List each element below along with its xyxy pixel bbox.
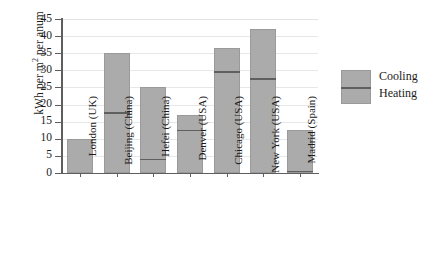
y-axis-tick-label: 15	[12, 114, 52, 126]
y-axis-tick-label: 5	[12, 148, 52, 160]
gridline	[62, 36, 318, 37]
y-axis-tick	[55, 19, 62, 20]
y-axis-tick-label: 40	[12, 29, 52, 41]
x-axis-tick-label: Denver (USA)	[196, 96, 208, 182]
y-axis-tick	[55, 122, 62, 123]
legend-label-cooling: Cooling	[379, 69, 418, 84]
y-axis-tick-label: 25	[12, 80, 52, 92]
y-axis-tick	[55, 156, 62, 157]
gridline	[62, 53, 318, 54]
y-axis-tick	[55, 105, 62, 106]
y-axis-tick-label: 20	[12, 97, 52, 109]
x-axis-tick-label: New York (USA)	[269, 96, 281, 182]
x-axis-tick	[80, 173, 81, 177]
y-axis-line	[61, 18, 63, 174]
y-axis-tick-label: 10	[12, 131, 52, 143]
y-axis-tick-label: 35	[12, 46, 52, 58]
x-axis-tick-label: Madrid (Spain)	[305, 96, 317, 182]
legend-label-heating: Heating	[379, 86, 417, 101]
bar-segment-divider	[250, 78, 276, 80]
y-axis-tick	[55, 70, 62, 71]
y-axis-tick-label: 30	[12, 63, 52, 75]
legend: Cooling Heating	[341, 69, 433, 107]
gridline	[62, 87, 318, 88]
y-axis-tick	[55, 173, 62, 174]
y-axis-title-superscript: 2	[31, 58, 40, 62]
x-axis-tick	[300, 173, 301, 177]
y-axis-tick-label: 0	[12, 166, 52, 178]
gridline	[62, 19, 318, 20]
x-axis-tick-label: Hefei (China)	[159, 96, 171, 182]
y-axis-tick	[55, 87, 62, 88]
y-axis-tick	[55, 36, 62, 37]
x-axis-tick	[263, 173, 264, 177]
x-axis-tick-label: Beijing (China)	[122, 96, 134, 182]
bar-segment-divider	[214, 71, 240, 73]
x-axis-tick	[190, 173, 191, 177]
gridline	[62, 70, 318, 71]
bar-chart-figure: kWh per m2 per anum 051015202530354045 L…	[0, 0, 435, 269]
y-axis-tick	[55, 139, 62, 140]
x-axis-tick	[153, 173, 154, 177]
x-axis-tick-label: London (UK)	[86, 96, 98, 182]
legend-swatch-divider	[341, 87, 371, 89]
y-axis-tick	[55, 53, 62, 54]
x-axis-tick	[117, 173, 118, 177]
legend-swatch	[341, 70, 371, 104]
y-axis-tick-label: 45	[12, 12, 52, 24]
x-axis-tick	[227, 173, 228, 177]
x-axis-tick-label: Chicago (USA)	[232, 96, 244, 182]
